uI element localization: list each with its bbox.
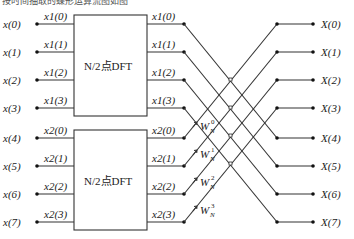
box-input-label: x2(2) (43, 180, 68, 193)
box-output-label: x1(3) (151, 94, 176, 107)
box-input-label: x2(3) (43, 208, 68, 221)
dft-block-upper-label: N/2点DFT (84, 60, 133, 72)
output-label: X(6) (320, 188, 341, 201)
box-output-label: x2(3) (151, 208, 176, 221)
output-label: X(4) (320, 132, 341, 145)
twiddle-sub: N (209, 127, 215, 135)
input-labels: x(0) x(1) x(2) x(3) x(4) x(5) x(6) x(7) (2, 18, 21, 229)
twiddle-sup: 3 (211, 202, 215, 210)
butterfly-diagram: 按时间抽取的蝶形运算流图如图 N/2点DFT N/2点DFT x(0) x(1)… (0, 0, 354, 239)
input-lines (35, 22, 74, 224)
output-labels: X(0) X(1) X(2) X(3) X(4) X(5) X(6) X(7) (320, 18, 341, 229)
box-input-label: x2(1) (43, 152, 68, 165)
input-label: x(4) (2, 132, 21, 145)
twiddle-sub: N (209, 155, 215, 163)
twiddle-base: W (200, 176, 210, 188)
input-label: x(7) (2, 216, 21, 229)
box-input-label: x1(0) (43, 10, 68, 23)
box-output-labels: x1(0) x1(1) x1(2) x1(3) x2(0) x2(1) x2(2… (151, 10, 176, 221)
intersection-nodes (229, 78, 232, 165)
box-output-label: x2(1) (151, 152, 176, 165)
input-label: x(1) (2, 46, 21, 59)
box-input-label: x1(3) (43, 94, 68, 107)
twiddle-sub: N (209, 211, 215, 219)
output-label: X(1) (320, 46, 341, 59)
box-input-labels: x1(0) x1(1) x1(2) x1(3) x2(0) x2(1) x2(2… (43, 10, 68, 221)
twiddle-base: W (200, 204, 210, 216)
twiddle-sup: 2 (211, 174, 215, 182)
output-lines (275, 22, 315, 224)
output-label: X(3) (320, 102, 341, 115)
box-output-label: x1(2) (151, 66, 176, 79)
box-input-label: x2(0) (43, 124, 68, 137)
input-label: x(5) (2, 160, 21, 173)
box-input-label: x1(1) (43, 38, 68, 51)
output-label: X(2) (320, 74, 341, 87)
box-output-lines (147, 22, 186, 224)
twiddle-factors: W N 0 W N 1 W N 2 W N 3 (200, 118, 215, 219)
box-output-label: x1(1) (151, 38, 176, 51)
input-label: x(6) (2, 188, 21, 201)
output-label: X(5) (320, 160, 341, 173)
box-output-label: x1(0) (151, 10, 176, 23)
output-label: X(7) (320, 216, 341, 229)
box-output-label: x2(2) (151, 180, 176, 193)
header-partial-text: 按时间抽取的蝶形运算流图如图 (2, 0, 128, 6)
twiddle-base: W (200, 120, 210, 132)
input-label: x(2) (2, 74, 21, 87)
twiddle-sub: N (209, 183, 215, 191)
dft-block-lower-label: N/2点DFT (84, 175, 133, 187)
box-output-label: x2(0) (151, 124, 176, 137)
butterfly-lines (184, 24, 277, 222)
box-input-label: x1(2) (43, 66, 68, 79)
input-label: x(0) (2, 18, 21, 31)
arrow-icons (193, 122, 197, 211)
twiddle-base: W (200, 148, 210, 160)
twiddle-sup: 0 (211, 118, 215, 126)
input-label: x(3) (2, 102, 21, 115)
twiddle-sup: 1 (211, 146, 215, 154)
output-label: X(0) (320, 18, 341, 31)
